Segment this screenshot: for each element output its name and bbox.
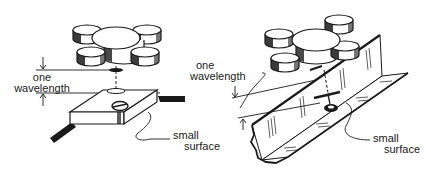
left-transducer-array xyxy=(73,25,161,72)
right-wavelength-label-line2: wavelength xyxy=(190,71,246,82)
left-surface-leader xyxy=(136,112,170,140)
diagram-figure: one wavelength small surface one wavelen… xyxy=(0,0,431,171)
left-wavelength-label: one wavelength xyxy=(14,72,70,94)
left-small-surface-label: small surface xyxy=(173,130,220,152)
right-wavelength-label: one wavelength xyxy=(190,60,246,82)
right-small-surface-line2: surface xyxy=(373,144,420,155)
left-plate xyxy=(50,89,185,144)
right-small-surface-label: small surface xyxy=(373,133,420,155)
left-small-surface-line2: surface xyxy=(173,141,220,152)
left-wavelength-label-line2: wavelength xyxy=(14,83,70,94)
